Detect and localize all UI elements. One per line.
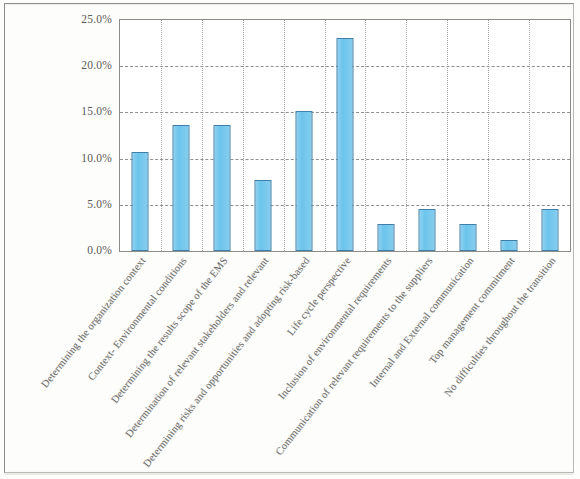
- bars: [120, 20, 570, 251]
- x-axis-tick-label: Communication of relevant requirements t…: [273, 255, 434, 457]
- bar[interactable]: [418, 209, 435, 251]
- plot-area: [119, 19, 571, 252]
- bar[interactable]: [377, 224, 394, 251]
- bar-slot: [202, 20, 243, 251]
- bar[interactable]: [214, 125, 231, 251]
- y-axis-tick-label: 25.0%: [50, 13, 112, 25]
- bar[interactable]: [173, 125, 190, 251]
- bar[interactable]: [132, 152, 149, 251]
- bar[interactable]: [255, 180, 272, 251]
- y-axis-tick-label: 10.0%: [50, 152, 112, 164]
- bar-slot: [488, 20, 529, 251]
- y-axis-tick-label: 15.0%: [50, 105, 112, 117]
- y-axis-tick-label: 5.0%: [50, 198, 112, 210]
- bar-slot: [284, 20, 325, 251]
- scanned-page: 0.0%5.0%10.0%15.0%20.0%25.0% Determining…: [0, 0, 580, 479]
- bar-slot: [120, 20, 161, 251]
- bar-slot: [243, 20, 284, 251]
- bar-slot: [447, 20, 488, 251]
- x-axis-tick-label: Top management commitment: [426, 255, 516, 366]
- bar-slot: [529, 20, 570, 251]
- x-axis: Determining the organization contextCont…: [119, 253, 571, 473]
- y-axis: 0.0%5.0%10.0%15.0%20.0%25.0%: [50, 0, 112, 479]
- bar[interactable]: [541, 209, 558, 251]
- bar[interactable]: [296, 111, 313, 251]
- bar-slot: [365, 20, 406, 251]
- x-axis-tick-label: Determination of relevant stakeholders a…: [123, 255, 270, 439]
- y-axis-tick-label: 20.0%: [50, 59, 112, 71]
- bar[interactable]: [459, 224, 476, 251]
- bar-slot: [325, 20, 366, 251]
- y-axis-tick-label: 0.0%: [50, 244, 112, 256]
- bar-slot: [161, 20, 202, 251]
- bar-slot: [406, 20, 447, 251]
- bar[interactable]: [336, 38, 353, 251]
- bar[interactable]: [500, 240, 517, 251]
- bar-chart: 0.0%5.0%10.0%15.0%20.0%25.0% Determining…: [0, 0, 580, 479]
